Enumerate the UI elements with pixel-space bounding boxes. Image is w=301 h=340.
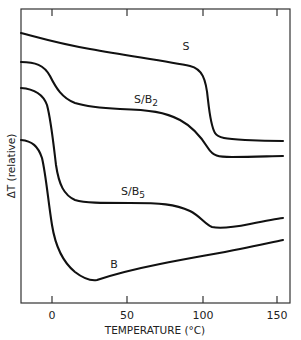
x-axis-title: TEMPERATURE (°C) (104, 324, 205, 336)
label-s-b2-main: S/B (134, 93, 152, 106)
x-tick-0: 0 (49, 309, 56, 322)
label-s-b5: S/B5 (121, 185, 145, 200)
label-s-b5-main: S/B (121, 185, 139, 198)
label-b: B (110, 258, 118, 271)
curve-s-b2 (21, 62, 283, 157)
curve-b (21, 140, 283, 280)
label-s-b5-sub: 5 (139, 190, 145, 200)
dsc-chart: 0 50 100 150 TEMPERATURE (°C) ΔT (relati… (0, 0, 301, 340)
x-tick-labels: 0 50 100 150 (49, 309, 288, 322)
top-ticks (52, 9, 277, 16)
label-s: S (183, 40, 190, 53)
x-tick-50: 50 (120, 309, 134, 322)
x-tick-150: 150 (267, 309, 288, 322)
x-tick-100: 100 (193, 309, 214, 322)
bottom-ticks (52, 296, 277, 303)
y-axis-title: ΔT (relative) (5, 134, 17, 199)
label-s-b2-sub: 2 (152, 98, 158, 108)
curve-s (21, 33, 283, 141)
label-s-b2: S/B2 (134, 93, 158, 108)
